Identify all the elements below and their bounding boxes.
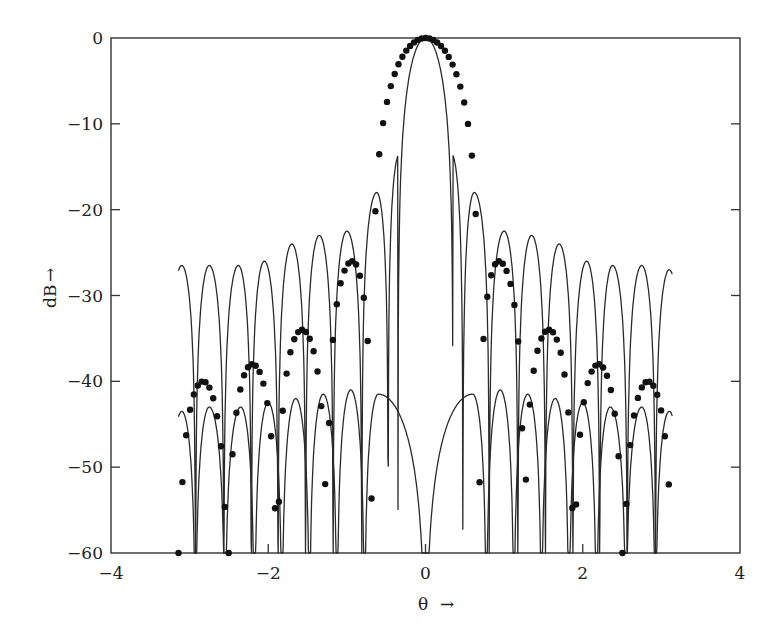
data-point-marker	[341, 267, 347, 273]
data-point-marker	[392, 71, 398, 77]
y-tick-label: −30	[67, 286, 103, 306]
x-tick-label: 0	[420, 563, 431, 583]
data-point-marker	[365, 338, 371, 344]
data-point-marker	[241, 372, 247, 378]
data-point-marker	[585, 380, 591, 386]
data-point-marker	[550, 329, 556, 335]
data-point-marker	[639, 384, 645, 390]
data-point-marker	[446, 54, 452, 60]
data-point-marker	[268, 433, 274, 439]
series-dotted-pattern	[175, 35, 672, 556]
x-axis-title: θ →	[418, 594, 454, 614]
data-point-marker	[662, 433, 668, 439]
data-point-marker	[322, 481, 328, 487]
data-point-marker	[627, 442, 633, 448]
data-point-marker	[500, 261, 506, 267]
data-point-marker	[577, 432, 583, 438]
data-point-marker	[318, 403, 324, 409]
data-point-marker	[473, 211, 479, 217]
data-point-marker	[461, 99, 467, 105]
data-point-marker	[635, 395, 641, 401]
data-point-marker	[658, 407, 664, 413]
data-point-marker	[581, 399, 587, 405]
x-tick-label: −4	[98, 563, 123, 583]
data-point-marker	[449, 61, 455, 67]
data-point-marker	[588, 368, 594, 374]
data-point-marker	[357, 273, 363, 279]
data-point-marker	[453, 71, 459, 77]
data-point-marker	[276, 499, 282, 505]
y-tick-label: −60	[67, 543, 103, 563]
data-point-marker	[619, 550, 625, 556]
y-axis-ticks: 0−10−20−30−40−50−60	[67, 28, 740, 563]
data-point-marker	[272, 505, 278, 511]
data-point-marker	[561, 371, 567, 377]
data-point-marker	[256, 369, 262, 375]
data-point-marker	[283, 370, 289, 376]
data-point-marker	[519, 425, 525, 431]
data-point-marker	[353, 261, 359, 267]
data-point-marker	[334, 301, 340, 307]
data-point-marker	[666, 481, 672, 487]
data-point-marker	[280, 408, 286, 414]
data-point-marker	[303, 329, 309, 335]
x-axis-label: θ	[418, 594, 428, 614]
data-point-marker	[534, 348, 540, 354]
data-point-marker	[206, 384, 212, 390]
data-point-marker	[558, 350, 564, 356]
data-point-marker	[650, 383, 656, 389]
data-point-marker	[507, 281, 513, 287]
x-axis-arrow-icon: →	[440, 594, 454, 614]
data-point-marker	[608, 387, 614, 393]
series-layer	[175, 35, 672, 556]
data-point-marker	[376, 151, 382, 157]
data-point-marker	[314, 368, 320, 374]
y-axis-label: dB	[40, 285, 60, 308]
data-point-marker	[175, 550, 181, 556]
data-point-marker	[287, 349, 293, 355]
data-point-marker	[222, 504, 228, 510]
data-point-marker	[214, 413, 220, 419]
data-point-marker	[237, 386, 243, 392]
data-point-marker	[484, 294, 490, 300]
data-point-marker	[554, 336, 560, 342]
data-point-marker	[202, 379, 208, 385]
data-point-marker	[469, 152, 475, 158]
data-point-marker	[179, 479, 185, 485]
data-point-marker	[337, 280, 343, 286]
data-point-marker	[457, 83, 463, 89]
x-tick-label: −2	[256, 563, 281, 583]
data-point-marker	[515, 338, 521, 344]
data-point-marker	[233, 410, 239, 416]
data-point-marker	[226, 550, 232, 556]
data-point-marker	[488, 272, 494, 278]
data-point-marker	[476, 479, 482, 485]
data-point-marker	[264, 400, 270, 406]
data-point-marker	[326, 420, 332, 426]
data-point-marker	[229, 451, 235, 457]
data-point-marker	[395, 61, 401, 67]
data-point-marker	[527, 401, 533, 407]
data-point-marker	[503, 268, 509, 274]
data-point-marker	[612, 411, 618, 417]
data-point-marker	[565, 409, 571, 415]
plot-frame	[111, 38, 740, 553]
data-point-marker	[531, 368, 537, 374]
data-point-marker	[388, 83, 394, 89]
y-tick-label: −10	[67, 114, 103, 134]
antenna-pattern-chart: 0−10−20−30−40−50−60 −4−2024 θ → dB →	[0, 0, 780, 638]
data-point-marker	[291, 336, 297, 342]
data-point-marker	[368, 495, 374, 501]
x-tick-label: 2	[577, 563, 588, 583]
y-tick-label: −40	[67, 371, 103, 391]
data-point-marker	[654, 392, 660, 398]
y-tick-label: −20	[67, 200, 103, 220]
data-point-marker	[310, 348, 316, 354]
data-point-marker	[523, 476, 529, 482]
data-point-marker	[187, 407, 193, 413]
data-point-marker	[573, 501, 579, 507]
data-point-marker	[604, 373, 610, 379]
data-point-marker	[191, 391, 197, 397]
data-point-marker	[399, 54, 405, 60]
data-point-marker	[615, 453, 621, 459]
